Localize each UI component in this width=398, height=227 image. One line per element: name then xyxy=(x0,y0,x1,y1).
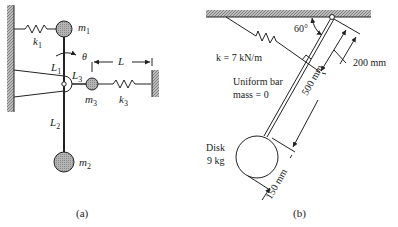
angle-arc xyxy=(312,18,322,35)
caption-b: (b) xyxy=(293,208,306,219)
left-wall xyxy=(7,5,14,112)
label-dim-200: 200 mm xyxy=(353,58,386,68)
mass-m1 xyxy=(56,21,72,37)
mass-m3 xyxy=(86,78,98,90)
pivot-pin xyxy=(62,82,66,86)
label-k3: k3 xyxy=(119,94,128,108)
label-disk-1: Disk xyxy=(206,143,225,153)
ceiling-pivot xyxy=(330,15,335,20)
label-k1: k1 xyxy=(33,36,42,50)
label-m3: m3 xyxy=(85,94,97,108)
label-bar-1: Uniform bar xyxy=(233,77,283,87)
rotation-arrow xyxy=(56,53,76,56)
label-theta: θ xyxy=(82,52,87,62)
label-m1: m1 xyxy=(78,22,90,36)
right-wall xyxy=(152,70,159,97)
ceiling xyxy=(206,10,371,17)
label-m2: m2 xyxy=(79,157,91,171)
label-l3: L3 xyxy=(72,70,82,84)
diagram-canvas xyxy=(0,0,398,227)
label-angle: 60° xyxy=(294,24,308,34)
support-strut-lower xyxy=(14,91,64,97)
mass-m2 xyxy=(54,152,74,172)
caption-a: (a) xyxy=(76,208,88,219)
label-l: L xyxy=(118,56,124,67)
label-bar-2: mass = 0 xyxy=(233,90,269,100)
label-disk-2: 9 kg xyxy=(207,156,225,166)
spring-k3 xyxy=(98,80,151,88)
label-l2: L2 xyxy=(50,117,60,131)
label-spring-k: k = 7 kN/m xyxy=(216,53,262,63)
label-l1: L1 xyxy=(51,62,61,76)
spring-k1 xyxy=(14,25,56,33)
disk xyxy=(236,136,278,178)
